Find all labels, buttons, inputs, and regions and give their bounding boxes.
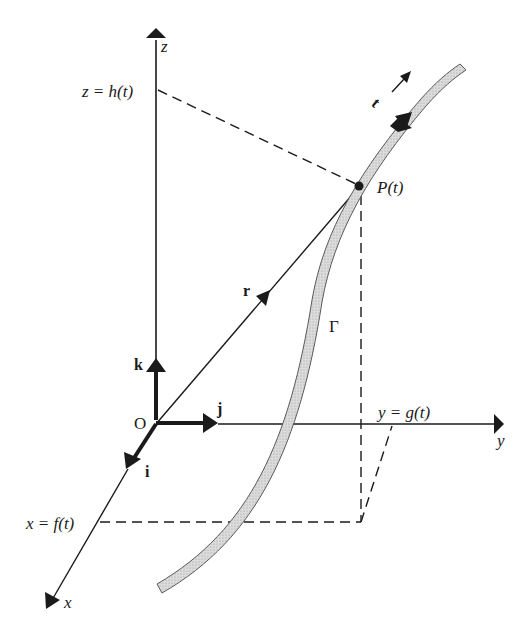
z-projection-label: z = h(t) [82,83,133,100]
y-projection-label: y = g(t) [378,404,430,421]
unit-vector-j [156,413,218,433]
x-projection-label: x = f(t) [26,515,74,532]
x-axis [45,469,128,609]
curve-gamma [157,64,466,593]
projection-lines [100,90,392,522]
point-p [355,182,364,191]
position-vector-r [156,188,358,424]
y-axis-label: y [497,432,505,449]
unit-vector-k [146,358,166,420]
position-vector-label: r [243,283,250,299]
origin-label: O [134,415,146,432]
x-axis-label: x [64,594,72,611]
unit-vector-i-label: i [145,464,149,480]
z-axis-label: z [161,38,168,55]
unit-vector-k-label: k [134,357,143,373]
curve-label: Γ [329,318,339,335]
unit-vector-j-label: j [217,401,222,417]
direction-arrow [392,71,411,92]
parametric-curve-diagram [0,0,526,632]
z-axis [146,28,166,372]
point-label: P(t) [377,179,403,196]
